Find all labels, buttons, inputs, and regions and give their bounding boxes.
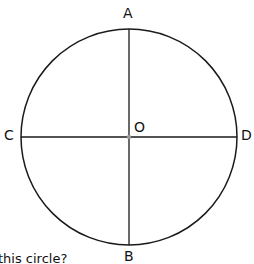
center-label-o: O <box>134 120 145 134</box>
point-label-d: D <box>241 128 252 142</box>
question-text: this circle? <box>0 251 67 264</box>
point-label-c: C <box>4 128 14 142</box>
point-label-b: B <box>124 249 134 263</box>
circle-diagram <box>0 0 254 264</box>
point-label-a: A <box>123 6 133 20</box>
center-dot <box>127 135 131 139</box>
